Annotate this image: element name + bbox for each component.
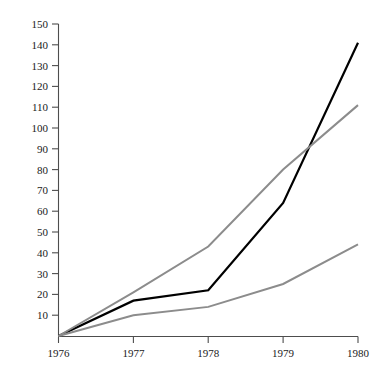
x-tick-label-1978: 1978 bbox=[197, 347, 220, 359]
y-tick-label-150: 150 bbox=[32, 18, 49, 30]
y-tick-label-130: 130 bbox=[32, 60, 49, 72]
y-tick-label-140: 140 bbox=[32, 39, 49, 51]
x-tick-labels: 1976 1977 1978 1979 1980 bbox=[48, 347, 370, 359]
y-tick-label-40: 40 bbox=[37, 247, 49, 259]
data-series-group bbox=[59, 43, 359, 336]
line-chart: 150 140 130 120 110 100 90 80 70 60 50 4… bbox=[0, 0, 385, 373]
y-tick-label-30: 30 bbox=[37, 268, 49, 280]
x-tick-marks bbox=[59, 337, 359, 344]
y-tick-label-110: 110 bbox=[32, 101, 49, 113]
y-tick-label-20: 20 bbox=[37, 288, 49, 300]
x-tick-label-1980: 1980 bbox=[347, 347, 370, 359]
y-tick-label-60: 60 bbox=[37, 205, 49, 217]
x-tick-label-1977: 1977 bbox=[122, 347, 145, 359]
y-tick-label-120: 120 bbox=[32, 80, 49, 92]
y-tick-label-70: 70 bbox=[37, 184, 49, 196]
y-tick-label-90: 90 bbox=[37, 143, 49, 155]
y-tick-labels: 150 140 130 120 110 100 90 80 70 60 50 4… bbox=[32, 18, 49, 321]
x-tick-label-1979: 1979 bbox=[272, 347, 295, 359]
y-tick-marks bbox=[52, 24, 59, 315]
y-tick-label-10: 10 bbox=[37, 309, 49, 321]
line-series-black bbox=[59, 43, 359, 336]
x-tick-label-1976: 1976 bbox=[48, 347, 71, 359]
chart-canvas: 150 140 130 120 110 100 90 80 70 60 50 4… bbox=[0, 0, 385, 373]
y-tick-label-50: 50 bbox=[37, 226, 49, 238]
y-tick-label-80: 80 bbox=[37, 164, 49, 176]
y-tick-label-100: 100 bbox=[32, 122, 49, 134]
